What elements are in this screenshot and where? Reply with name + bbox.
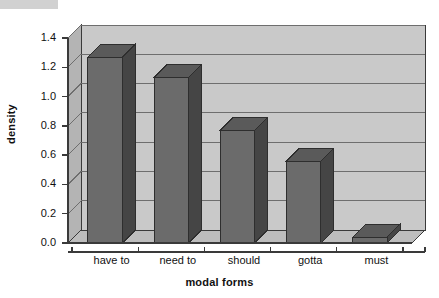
bar-gotta-side xyxy=(321,148,334,243)
bar-chart: density modal forms 1.4 1.2 1.0 0.8 0.6 … xyxy=(0,0,439,298)
bar-must-front xyxy=(353,237,387,243)
bar-have-to-front xyxy=(88,57,122,243)
left-side-wall xyxy=(68,25,81,243)
plot-area xyxy=(0,0,439,298)
bar-need-to-side xyxy=(189,65,202,243)
bar-should-front xyxy=(220,130,254,243)
bar-need-to-front xyxy=(154,78,188,243)
bar-should-side xyxy=(255,117,268,243)
bar-gotta-front xyxy=(286,161,320,243)
bar-have-to-side xyxy=(122,44,135,243)
